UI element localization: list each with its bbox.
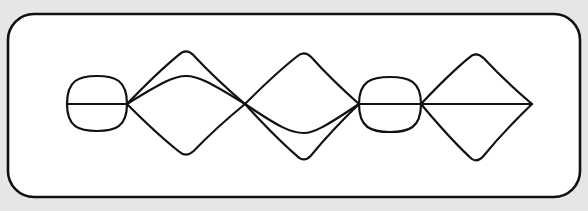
diagram-panel bbox=[8, 14, 580, 197]
diagram-canvas bbox=[0, 0, 588, 211]
